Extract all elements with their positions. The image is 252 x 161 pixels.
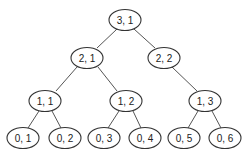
- node-0-3: 0, 3: [88, 128, 120, 149]
- edge-1-2-to-0-3: [108, 111, 119, 128]
- node-label: 0, 6: [217, 133, 234, 144]
- node-3-1: 3, 1: [109, 10, 141, 31]
- edge-1-1-to-0-2: [52, 111, 61, 128]
- node-2-1: 2, 1: [71, 48, 103, 69]
- node-label: 0, 5: [176, 133, 193, 144]
- node-label: 0, 4: [137, 133, 154, 144]
- node-0-4: 0, 4: [129, 128, 161, 149]
- edges: [28, 29, 221, 128]
- edge-3-1-to-2-1: [97, 29, 117, 48]
- node-label: 0, 2: [57, 133, 74, 144]
- node-label: 1, 3: [197, 96, 214, 107]
- node-1-3: 1, 3: [189, 91, 221, 112]
- edge-2-1-to-1-1: [56, 67, 77, 91]
- node-0-2: 0, 2: [49, 128, 81, 149]
- node-1-2: 1, 2: [110, 91, 142, 112]
- node-label: 1, 2: [118, 96, 135, 107]
- node-label: 0, 3: [96, 133, 113, 144]
- edge-3-1-to-2-2: [134, 29, 155, 48]
- edge-1-2-to-0-4: [133, 111, 141, 128]
- node-0-5: 0, 5: [168, 128, 200, 149]
- node-0-6: 0, 6: [209, 128, 241, 149]
- edge-2-1-to-1-2: [98, 67, 117, 91]
- node-label: 3, 1: [117, 15, 134, 26]
- node-1-1: 1, 1: [29, 91, 61, 112]
- node-2-2: 2, 2: [148, 48, 180, 69]
- edge-1-1-to-0-1: [28, 111, 39, 128]
- node-label: 1, 1: [37, 96, 54, 107]
- edge-1-3-to-0-6: [212, 111, 221, 128]
- node-0-1: 0, 1: [7, 128, 39, 149]
- node-label: 2, 1: [79, 53, 96, 64]
- edge-2-2-to-1-3: [172, 67, 197, 91]
- node-label: 0, 1: [15, 133, 32, 144]
- edge-1-3-to-0-5: [188, 111, 198, 128]
- tree-diagram: 3, 1 2, 1 2, 2 1, 1 1, 2 1, 3 0, 1 0, 2 …: [0, 0, 252, 161]
- node-label: 2, 2: [156, 53, 173, 64]
